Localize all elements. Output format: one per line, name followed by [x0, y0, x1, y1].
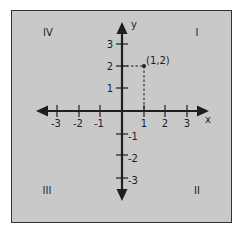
quadrant-label-top-left: IV — [43, 27, 53, 38]
x-tick-label: 1 — [141, 118, 147, 129]
x-tick-label: 2 — [162, 118, 168, 129]
y-axis-down-arrow-icon — [117, 189, 128, 201]
y-tick-label: 2 — [107, 61, 113, 72]
x-axis-left-arrow-icon — [36, 106, 48, 117]
y-tick-label: -3 — [128, 175, 138, 186]
x-tick-label: 3 — [184, 118, 190, 129]
quadrant-label-bottom-left: III — [43, 185, 52, 196]
y-tick-label: 1 — [107, 83, 113, 94]
x-tick-label: -3 — [51, 118, 61, 129]
coordinate-plane: -3 -2 -1 1 2 3 x 3 2 1 -1 -2 -3 y (1,2) … — [0, 0, 239, 230]
y-tick-label: -1 — [128, 131, 138, 142]
y-tick-label: 3 — [107, 39, 113, 50]
x-axis-label: x — [205, 114, 211, 125]
x-tick-label: -1 — [94, 118, 104, 129]
x-tick-labels: -3 -2 -1 1 2 3 — [51, 118, 190, 129]
point-label: (1,2) — [146, 55, 170, 66]
quadrant-label-bottom-right: II — [194, 185, 200, 196]
x-tick-label: -2 — [73, 118, 83, 129]
y-axis-up-arrow-icon — [117, 22, 128, 34]
quadrant-label-top-right: I — [196, 27, 199, 38]
y-axis-label: y — [131, 19, 137, 30]
y-tick-label: -2 — [128, 153, 138, 164]
